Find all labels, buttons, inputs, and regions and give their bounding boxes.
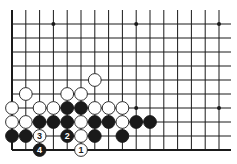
move-number-label: 2 bbox=[65, 131, 70, 141]
black-stone bbox=[130, 116, 143, 129]
white-stone bbox=[75, 130, 88, 143]
white-stone: 1 bbox=[75, 144, 88, 157]
black-stone bbox=[88, 130, 101, 143]
star-point-icon bbox=[134, 22, 138, 26]
black-stone bbox=[19, 130, 32, 143]
white-stone bbox=[102, 102, 115, 115]
move-number-label: 3 bbox=[37, 131, 42, 141]
white-stone bbox=[6, 116, 19, 129]
black-stone bbox=[61, 116, 74, 129]
black-stone: 4 bbox=[33, 144, 46, 157]
white-stone bbox=[6, 102, 19, 115]
go-board[interactable]: 3241 bbox=[0, 0, 237, 164]
star-point-icon bbox=[134, 106, 138, 110]
white-stone bbox=[75, 88, 88, 101]
black-stone bbox=[33, 116, 46, 129]
white-stone bbox=[33, 102, 46, 115]
white-stone bbox=[19, 116, 32, 129]
white-stone bbox=[88, 74, 101, 87]
white-stone bbox=[75, 116, 88, 129]
white-stone bbox=[19, 88, 32, 101]
black-stone bbox=[6, 130, 19, 143]
black-stone bbox=[61, 102, 74, 115]
white-stone: 3 bbox=[33, 130, 46, 143]
black-stone: 2 bbox=[61, 130, 74, 143]
move-number-label: 1 bbox=[78, 145, 83, 155]
white-stone bbox=[61, 88, 74, 101]
black-stone bbox=[116, 130, 129, 143]
black-stone bbox=[88, 116, 101, 129]
black-stone bbox=[102, 116, 115, 129]
white-stone bbox=[116, 116, 129, 129]
move-number-label: 4 bbox=[37, 145, 42, 155]
white-stone bbox=[47, 102, 60, 115]
white-stone bbox=[116, 102, 129, 115]
star-point-icon bbox=[217, 106, 221, 110]
white-stone bbox=[88, 102, 101, 115]
black-stone bbox=[47, 116, 60, 129]
black-stone bbox=[75, 102, 88, 115]
star-point-icon bbox=[51, 22, 55, 26]
black-stone bbox=[144, 116, 157, 129]
board-grid bbox=[12, 10, 231, 150]
star-point-icon bbox=[217, 22, 221, 26]
